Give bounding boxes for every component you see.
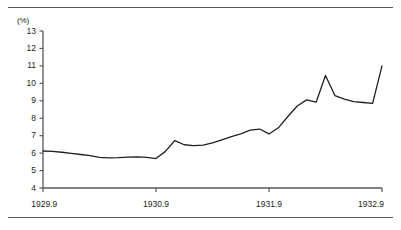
series-line-rate xyxy=(43,66,382,159)
data-series-group xyxy=(43,66,382,159)
plot-area xyxy=(0,0,401,230)
line-chart-svg xyxy=(0,0,401,230)
axes-group xyxy=(40,31,383,192)
chart-figure: (%) 456789101112131929.91930.91931.91932… xyxy=(0,0,401,230)
